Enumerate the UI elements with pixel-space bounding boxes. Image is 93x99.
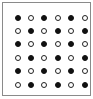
grid-cell bbox=[78, 78, 91, 91]
hollow-dot-icon bbox=[82, 68, 88, 74]
grid-cell bbox=[11, 78, 24, 91]
filled-dot-icon bbox=[68, 15, 74, 21]
hollow-dot-icon bbox=[41, 28, 47, 34]
grid-cell bbox=[51, 24, 64, 37]
hollow-dot-icon bbox=[82, 41, 88, 47]
hollow-dot-icon bbox=[55, 41, 61, 47]
hollow-dot-icon bbox=[68, 55, 74, 61]
filled-dot-icon bbox=[28, 55, 34, 61]
hollow-dot-icon bbox=[55, 68, 61, 74]
grid-cell bbox=[38, 78, 51, 91]
filled-dot-icon bbox=[15, 15, 21, 21]
grid-cell bbox=[24, 38, 37, 51]
filled-dot-icon bbox=[68, 41, 74, 47]
grid-cell bbox=[65, 65, 78, 78]
grid-cell bbox=[24, 78, 37, 91]
grid-cell bbox=[65, 11, 78, 24]
grid-cell bbox=[38, 11, 51, 24]
grid-cell bbox=[24, 11, 37, 24]
filled-dot-icon bbox=[55, 28, 61, 34]
hollow-dot-icon bbox=[15, 28, 21, 34]
grid-cell bbox=[11, 65, 24, 78]
grid-cell bbox=[11, 38, 24, 51]
grid-cell bbox=[78, 24, 91, 37]
grid-cell bbox=[24, 65, 37, 78]
grid-cell bbox=[38, 51, 51, 64]
grid-cell bbox=[51, 11, 64, 24]
grid-cell bbox=[51, 51, 64, 64]
filled-dot-icon bbox=[15, 41, 21, 47]
grid-cell bbox=[11, 51, 24, 64]
grid-cell bbox=[65, 24, 78, 37]
filled-dot-icon bbox=[28, 82, 34, 88]
filled-dot-icon bbox=[82, 28, 88, 34]
hollow-dot-icon bbox=[15, 82, 21, 88]
grid-cell bbox=[65, 51, 78, 64]
grid-cell bbox=[51, 38, 64, 51]
hollow-dot-icon bbox=[15, 55, 21, 61]
filled-dot-icon bbox=[41, 15, 47, 21]
grid-cell bbox=[24, 51, 37, 64]
dot-grid-frame bbox=[2, 2, 91, 96]
hollow-dot-icon bbox=[68, 28, 74, 34]
grid-cell bbox=[38, 65, 51, 78]
grid-cell bbox=[78, 65, 91, 78]
hollow-dot-icon bbox=[68, 82, 74, 88]
grid-cell bbox=[78, 11, 91, 24]
filled-dot-icon bbox=[82, 55, 88, 61]
grid-cell bbox=[24, 24, 37, 37]
grid-cell bbox=[51, 78, 64, 91]
dot-grid bbox=[11, 11, 91, 91]
hollow-dot-icon bbox=[28, 41, 34, 47]
grid-cell bbox=[38, 38, 51, 51]
grid-cell bbox=[11, 24, 24, 37]
filled-dot-icon bbox=[55, 55, 61, 61]
hollow-dot-icon bbox=[41, 82, 47, 88]
filled-dot-icon bbox=[68, 68, 74, 74]
hollow-dot-icon bbox=[41, 55, 47, 61]
grid-cell bbox=[51, 65, 64, 78]
filled-dot-icon bbox=[15, 68, 21, 74]
grid-cell bbox=[78, 51, 91, 64]
grid-cell bbox=[38, 24, 51, 37]
grid-cell bbox=[78, 38, 91, 51]
grid-cell bbox=[65, 38, 78, 51]
hollow-dot-icon bbox=[55, 15, 61, 21]
filled-dot-icon bbox=[41, 41, 47, 47]
hollow-dot-icon bbox=[82, 15, 88, 21]
filled-dot-icon bbox=[55, 82, 61, 88]
grid-cell bbox=[65, 78, 78, 91]
hollow-dot-icon bbox=[28, 15, 34, 21]
hollow-dot-icon bbox=[28, 68, 34, 74]
filled-dot-icon bbox=[41, 68, 47, 74]
grid-cell bbox=[11, 11, 24, 24]
filled-dot-icon bbox=[28, 28, 34, 34]
filled-dot-icon bbox=[82, 82, 88, 88]
